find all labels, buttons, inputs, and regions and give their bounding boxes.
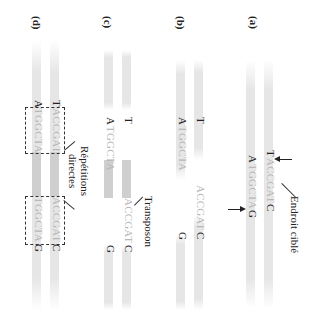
direct-repeat-box-right: [25, 196, 65, 245]
annotation-target-site: Endroit ciblé: [289, 196, 300, 253]
pointer-line: [64, 141, 75, 151]
base-right: C: [195, 232, 206, 239]
base-right: C: [51, 244, 62, 251]
dna-strand-bottom-right: [104, 245, 113, 310]
arrowhead-icon: [240, 206, 246, 212]
transposon-segment-bottom: [32, 152, 41, 196]
arrowhead-icon: [274, 156, 280, 162]
dna-strand-top-right: [122, 245, 131, 310]
pointer-line: [63, 200, 74, 210]
base-left: A: [177, 117, 188, 125]
base-right: G: [177, 232, 188, 240]
base-left: A: [105, 117, 116, 125]
panel-c-label: (c): [102, 16, 113, 28]
transposon-segment-top: [50, 152, 59, 196]
base-right: C: [265, 204, 276, 211]
target-sequence-top: ACCGAT: [265, 158, 276, 203]
sequence-bottom: TGGCTA: [177, 126, 188, 171]
base-right: G: [247, 210, 258, 218]
base-right: G: [33, 244, 44, 252]
base-right: C: [123, 245, 134, 252]
dna-strand-top-left: [122, 50, 131, 110]
panel-d-label: (d): [31, 16, 42, 29]
direct-repeat-box-left: [25, 107, 65, 154]
annotation-direct-repeats-line2: directes: [67, 154, 78, 188]
panel-a-label: (a): [248, 16, 259, 29]
sequence-top: ACCGAT: [123, 198, 134, 243]
sequence-top: ACCGAT: [195, 185, 206, 230]
base-right: G: [105, 245, 116, 253]
pointer-line: [134, 197, 143, 206]
annotation-direct-repeats-line1: Répétitions: [79, 146, 90, 196]
dna-strand-bottom-right: [176, 235, 185, 310]
dna-strand-bottom-left: [104, 50, 113, 110]
transposon-segment-top: [122, 160, 131, 198]
base-left: A: [247, 155, 258, 163]
annotation-transposon: Transposon: [143, 196, 154, 247]
panel-b-label: (b): [175, 16, 186, 29]
base-left: T: [195, 117, 206, 124]
cut-arrow-top-icon: [278, 159, 292, 160]
base-left: T: [123, 117, 134, 124]
sequence-bottom: TGGCTA: [105, 126, 116, 171]
dna-strand-top-left: [194, 60, 203, 160]
target-sequence-bottom: TGGCTA: [247, 164, 258, 209]
base-left: T: [51, 100, 62, 107]
